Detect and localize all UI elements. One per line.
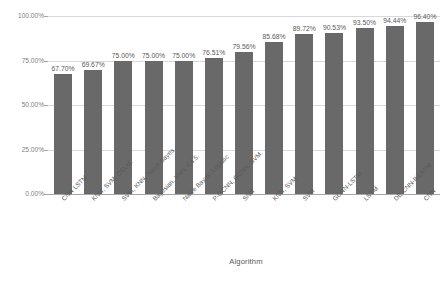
bar[interactable] [84,70,102,194]
bar-value-label: 75.00% [172,52,195,59]
bar-slot: 90.53% [319,16,349,194]
y-axis-tick-label: 50.00% [0,101,44,108]
bar-chart: Average Accuracy 0.00%25.00%50.00%75.00%… [0,0,446,281]
y-axis-tick-label: 75.00% [0,57,44,64]
y-axis-tick-label: 25.00% [0,146,44,153]
bar-value-label: 69.67% [82,61,105,68]
bar-slot: 67.70% [48,16,78,194]
bar-value-label: 85.68% [263,33,286,40]
bar[interactable] [295,34,313,194]
bar-value-label: 89.72% [293,25,316,32]
bar-value-label: 79.56% [232,43,255,50]
bar-slot: 85.68% [259,16,289,194]
bar-value-label: 75.00% [142,52,165,59]
bar[interactable] [386,26,404,194]
bar[interactable] [265,42,283,195]
bar-value-label: 67.70% [52,65,75,72]
bar-value-label: 75.00% [112,52,135,59]
bar-slot: 69.67% [78,16,108,194]
bar-value-label: 96.40% [413,13,436,20]
bar-slot: 89.72% [289,16,319,194]
y-axis-tick-label: 100.00% [0,12,44,19]
bar[interactable] [54,74,72,195]
y-axis-tick-mark [44,194,48,195]
bar-slot: 94.44% [380,16,410,194]
bar[interactable] [325,33,343,194]
y-axis-tick-label: 0.00% [0,190,44,197]
bar-value-label: 93.50% [353,19,376,26]
bar-value-label: 94.44% [383,17,406,24]
bar-value-label: 76.51% [202,49,225,56]
bar-value-label: 90.53% [323,24,346,31]
bar-slot: 93.50% [350,16,380,194]
x-axis-title: Algorithm [48,257,444,266]
